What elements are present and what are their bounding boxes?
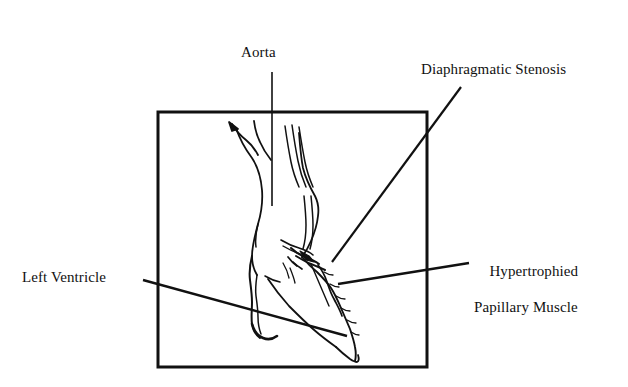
chordae-tendineae-a-path	[283, 263, 289, 278]
label-left-ventricle: Left Ventricle	[22, 268, 106, 286]
label-diaphragmatic-stenosis: Diaphragmatic Stenosis	[421, 60, 566, 78]
aortic-sinus-left-path	[256, 224, 258, 247]
interventricular-septum-inner-path	[256, 275, 261, 334]
diagram-frame	[158, 112, 427, 367]
papillary-notch-a-path	[324, 272, 333, 275]
papillary-notch-e-path	[347, 320, 356, 323]
outflow-inner-wall-a-path	[303, 196, 306, 249]
papillary-notch-b-path	[330, 284, 339, 287]
aorta-left-wall-path	[236, 128, 262, 275]
leader-left-ventricle	[143, 280, 347, 336]
lv-free-wall-outer-path	[302, 257, 356, 361]
chordae-tendineae-b-path	[290, 268, 295, 283]
heart-line-drawing	[229, 121, 359, 362]
stenosis-spur-b-path	[293, 262, 302, 269]
aorta-right-wall-path	[299, 133, 318, 257]
leader-hypertrophied-papillary-muscle	[338, 263, 469, 284]
label-hypertrophied-papillary-muscle: Hypertrophied Papillary Muscle	[474, 244, 578, 352]
anatomical-figure: Aorta Diaphragmatic Stenosis Left Ventri…	[0, 0, 628, 387]
lv-cavity-wall-path	[268, 279, 336, 347]
label-hypertrophied-line1: Hypertrophied	[489, 263, 578, 279]
label-aorta: Aorta	[241, 43, 276, 61]
label-hypertrophied-line2: Papillary Muscle	[474, 298, 578, 316]
brachiocephalic-tip-path	[229, 122, 238, 131]
septum-apex-hook-path	[252, 324, 277, 339]
